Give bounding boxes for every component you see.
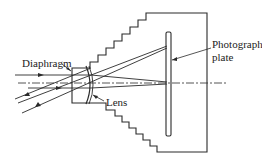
diaphragm-label: Diaphragm — [22, 57, 71, 69]
bellows-body — [90, 13, 207, 152]
ray-arrows — [24, 73, 62, 107]
lens-label: Lens — [106, 96, 127, 108]
photographic-plate-label-line2: plate — [212, 51, 233, 63]
diaphragm — [72, 68, 90, 103]
photographic-plate-label-line1: Photographic — [212, 38, 262, 50]
lens — [86, 66, 90, 104]
plate-leader — [172, 48, 211, 60]
camera-diagram — [0, 0, 262, 162]
